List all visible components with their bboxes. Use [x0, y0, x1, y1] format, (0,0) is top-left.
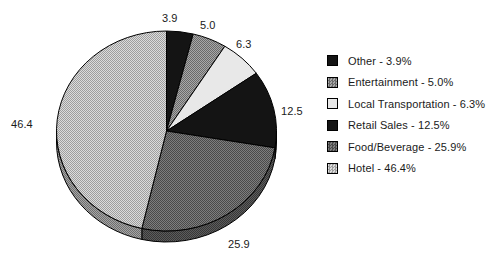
- pie-value-label: 6.3: [236, 38, 252, 50]
- legend-item[interactable]: Food/Beverage - 25.9%: [327, 136, 499, 158]
- pie-value-label: 12.5: [281, 105, 303, 117]
- legend-swatch-icon: [327, 163, 338, 174]
- legend-label: Other - 3.9%: [348, 55, 412, 67]
- legend-swatch-icon: [327, 141, 338, 152]
- legend-swatch-icon: [327, 98, 338, 109]
- pie-slice-group: [57, 31, 277, 231]
- legend-item[interactable]: Hotel - 46.4%: [327, 158, 499, 180]
- pie-value-label: 25.9: [228, 238, 250, 250]
- legend-label: Local Transportation - 6.3%: [348, 98, 485, 110]
- legend-item[interactable]: Other - 3.9%: [327, 50, 499, 72]
- legend-swatch-icon: [327, 55, 338, 66]
- legend-label: Retail Sales - 12.5%: [348, 119, 450, 131]
- pie-value-label: 46.4: [11, 118, 33, 130]
- legend-swatch-icon: [327, 77, 338, 88]
- legend-label: Hotel - 46.4%: [348, 162, 416, 174]
- legend-label: Food/Beverage - 25.9%: [348, 141, 466, 153]
- chart-legend: Other - 3.9%Entertainment - 5.0%Local Tr…: [327, 50, 499, 179]
- legend-item[interactable]: Retail Sales - 12.5%: [327, 115, 499, 137]
- legend-label: Entertainment - 5.0%: [348, 76, 453, 88]
- pie-value-label: 3.9: [162, 12, 178, 24]
- pie-chart-figure: 3.95.06.312.525.946.4 Other - 3.9%Entert…: [0, 0, 501, 264]
- legend-item[interactable]: Entertainment - 5.0%: [327, 72, 499, 94]
- legend-item[interactable]: Local Transportation - 6.3%: [327, 93, 499, 115]
- legend-swatch-icon: [327, 120, 338, 131]
- pie-value-label: 5.0: [200, 19, 216, 31]
